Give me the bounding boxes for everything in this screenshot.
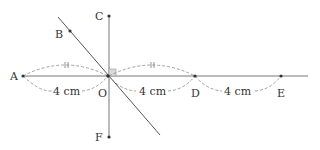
point-C <box>107 14 110 17</box>
label-A: A <box>9 70 19 83</box>
arc-AO-upper <box>23 65 108 76</box>
measure-DE: 4 cm <box>224 85 252 98</box>
label-B: B <box>55 28 63 41</box>
arc-OD-upper <box>109 65 195 76</box>
right-angle-marker <box>109 69 116 76</box>
point-D <box>193 74 196 77</box>
measure-OD: 4 cm <box>139 85 167 98</box>
point-O <box>106 74 110 78</box>
label-D: D <box>191 87 200 100</box>
point-E <box>279 74 282 77</box>
label-O: O <box>98 87 107 100</box>
measure-AO: 4 cm <box>53 85 81 98</box>
label-E: E <box>277 87 285 100</box>
geometry-diagram: A O D E B C F 4 cm 4 cm 4 cm <box>0 0 320 150</box>
point-B <box>68 29 71 32</box>
point-F <box>107 135 110 138</box>
point-A <box>21 74 24 77</box>
label-C: C <box>95 10 103 23</box>
label-F: F <box>95 131 103 144</box>
